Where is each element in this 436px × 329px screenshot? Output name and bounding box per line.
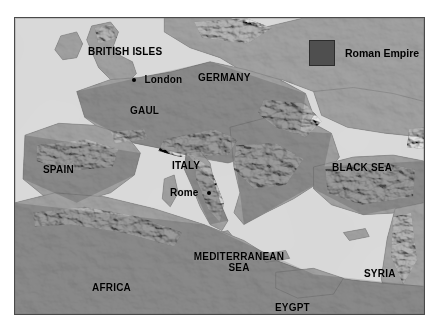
rome-dot [207, 191, 211, 195]
label-gaul: GAUL [130, 106, 159, 117]
label-italy: ITALY [172, 161, 200, 172]
label-mediterranean-line2: SEA [228, 262, 249, 273]
city-rome: Rome [170, 183, 211, 201]
label-mediterranean-sea: MEDITERRANEAN SEA [189, 252, 289, 273]
label-black-sea: BLACK SEA [332, 163, 392, 174]
label-london: London [144, 75, 182, 86]
label-africa: AFRICA [92, 283, 131, 294]
label-rome: Rome [170, 188, 199, 199]
label-germany: GERMANY [198, 73, 251, 84]
legend-label-roman-empire: Roman Empire [345, 47, 419, 59]
label-eygpt: EYGPT [275, 303, 310, 314]
london-dot [132, 78, 136, 82]
map-legend: Roman Empire [309, 40, 419, 66]
legend-swatch-roman-empire [309, 40, 335, 66]
label-syria: SYRIA [364, 269, 396, 280]
label-british-isles: BRITISH ISLES [88, 47, 162, 58]
label-mediterranean-line1: MEDITERRANEAN [194, 251, 284, 262]
city-london: London [132, 70, 182, 88]
label-spain: SPAIN [43, 165, 74, 176]
relief-map-figure: BRITISH ISLES GERMANY GAUL SPAIN ITALY B… [14, 17, 425, 315]
